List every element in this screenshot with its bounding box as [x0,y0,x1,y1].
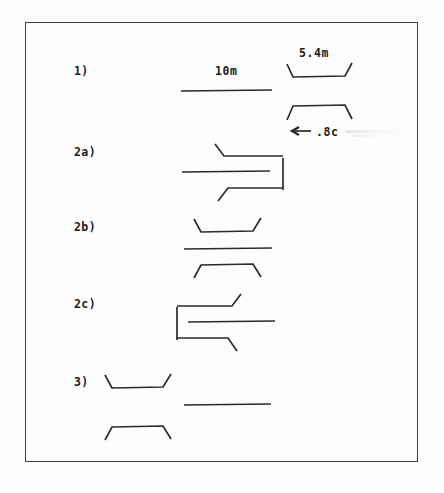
row-label-3: 3) [74,375,89,389]
dimension-0-8c: .8c [316,125,339,139]
dimension-10m: 10m [215,64,238,78]
row-label-2a: 2a) [74,145,96,159]
diagram-page: 1) 2a) 2b) 2c) 3) 10m 5.4m .8c [0,0,444,493]
row-label-2c: 2c) [74,297,96,311]
row-label-1: 1) [74,64,89,78]
dimension-5-4m: 5.4m [299,46,329,60]
diagram-border-frame [25,22,418,462]
row-label-2b: 2b) [74,220,96,234]
